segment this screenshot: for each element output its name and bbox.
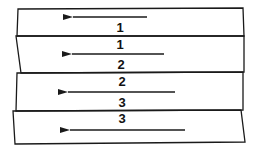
strip-number-label: 3 [118, 111, 125, 126]
strip-4 [13, 110, 245, 144]
strip-number-label: 1 [116, 37, 123, 52]
strip-number-label: 1 [116, 20, 123, 35]
strip-number-label: 2 [118, 74, 125, 89]
strip-number-label: 3 [118, 95, 125, 110]
strip-number-label: 2 [117, 57, 124, 72]
strip-1 [17, 8, 244, 36]
stacked-strips-diagram: 112233 [0, 0, 259, 149]
